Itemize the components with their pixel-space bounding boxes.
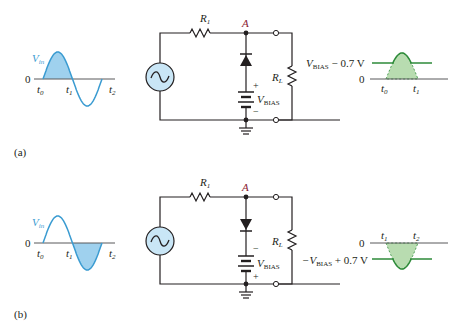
panel-b: 0 Vin t0 t1 t2 R1 A RL [14,176,448,321]
input-zero-label-a: 0 [25,73,31,85]
wire-rl-top-a [279,33,292,66]
input-zero-label-b: 0 [25,237,31,249]
battery-bottom-polarity-b: + [253,271,259,282]
circuit-b: R1 A RL − + VBIAS [146,176,340,298]
output-shaded-b [386,243,418,269]
vin-label-b: Vin [32,216,45,230]
panel-label-b: (b) [14,308,27,321]
output-waveform-b: 0 −VBIAS + 0.7 V t1 t2 [302,229,448,269]
wire-rl-top-b [279,197,292,230]
diode-clipper-figure: 0 Vin t0 t1 t2 R1 A RL [0,0,473,326]
rl-label-b: RL [271,235,283,249]
output-ta-label-a: t0 [381,82,388,96]
output-zero-label-b: 0 [359,237,365,249]
output-level-label-a: VBIAS − 0.7 V [306,57,365,71]
battery-top-polarity-b: − [253,243,259,254]
output-shaded-a [386,53,418,79]
output-terminal-top-a[interactable] [273,30,278,35]
wire-bottom-a [160,91,340,120]
output-zero-label-a: 0 [359,73,365,85]
node-a-label-b: A [241,181,249,193]
output-waveform-a: 0 VBIAS − 0.7 V t0 t1 [306,53,448,96]
battery-top-polarity-a: + [253,80,259,91]
node-a-label-a: A [241,17,249,29]
t1-label-a: t1 [66,83,73,97]
panel-a: 0 Vin t0 t1 t2 R1 A RL [14,12,448,159]
wire-source-top-a [160,33,190,63]
panel-label-a: (a) [14,146,27,159]
circuit-a: R1 A RL + − VBIAS [146,12,340,134]
wire-rl-bottom-b [279,250,292,284]
t2-label-a: t2 [109,83,116,97]
output-tb-label-a: t1 [413,82,420,96]
output-ta-label-b: t1 [381,229,388,243]
output-level-label-b: −VBIAS + 0.7 V [302,254,368,268]
input-waveform-b: 0 Vin t0 t1 t2 [25,216,116,270]
wire-rl-bottom-a [279,86,292,120]
rl-label-a: RL [271,71,283,85]
vbias-label-a: VBIAS [257,93,280,107]
diode-a [240,55,252,66]
resistor-r1-b [190,193,210,201]
r1-label-b: R1 [199,176,210,190]
vin-label-a: Vin [32,52,45,66]
wire-source-top-b [160,197,190,227]
vbias-label-b: VBIAS [257,257,280,271]
resistor-rl-b [288,230,296,250]
t1-label-b: t1 [66,247,73,261]
t0-label-b: t0 [37,247,44,261]
output-terminal-bottom-a[interactable] [273,117,278,122]
r1-label-a: R1 [199,12,210,26]
resistor-rl-a [288,66,296,86]
input-waveform-a: 0 Vin t0 t1 t2 [25,52,116,106]
resistor-r1-a [190,29,210,37]
output-tb-label-b: t2 [413,229,420,243]
t0-label-a: t0 [37,83,44,97]
battery-bottom-polarity-a: − [253,106,259,117]
diode-b [240,219,252,230]
t2-label-b: t2 [109,247,116,261]
output-terminal-bottom-b[interactable] [273,281,278,286]
output-terminal-top-b[interactable] [273,194,278,199]
